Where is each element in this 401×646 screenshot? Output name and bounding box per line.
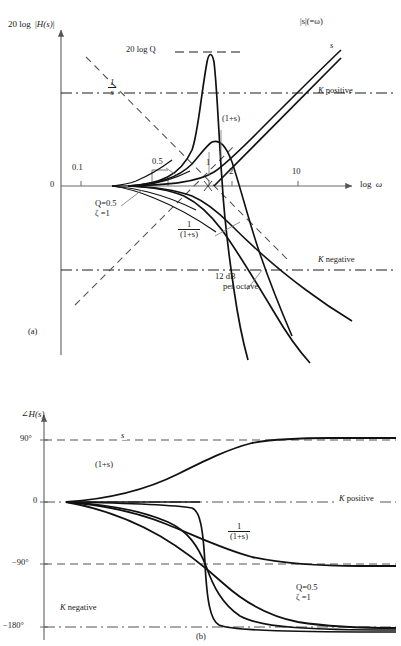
plot-a-y-axis-label: 20 log |H(s)| [8,20,55,29]
plot-a-x-axis-label: log ω [360,180,382,189]
plot-a-inv-s-dashed-ext [248,220,290,262]
plot-a-slope-label: 12 dB per octave [215,272,258,291]
plot-a-k-positive-label: K K positive positive [318,86,353,95]
plot-a-xtick-label-0.1: 0.1 [72,163,83,172]
plot-a-leader-lines [121,130,262,290]
plot-b-inv-one-plus-s-label: 1 (1+s) [228,522,250,540]
plot-b-ytick-label-90: 90° [20,434,32,443]
plot-a-origin-label: 0 [50,180,54,189]
plot-a-xtick-label-10: 10 [292,167,301,176]
plot-a-s-curve-label: s [330,41,333,50]
plot-a-axes [61,30,352,355]
plot-a-abs-s-label: |s|(=ω) [300,17,323,26]
plot-a-leader-q05 [121,190,142,206]
plot-a-xtick-label-0.5: 0.5 [152,157,163,166]
plot-a-q-zeta-label: Q=0.5 ζ =1 [95,199,117,218]
plot-b-axes [40,415,48,640]
plot-b-k-positive-label: K positive [337,494,376,503]
plot-b-y-axis-label: ∠H(s) [19,410,45,419]
plot-b-ytick-label-minus90: −90° [12,558,29,567]
plot-a-one-plus-s-label: (1+s) [222,114,240,123]
angle-icon: ∠ [19,410,29,419]
plot-a-20logq-label: 20 log Q [126,45,156,54]
plot-b-q-zeta-label: Q=0.5 ζ =1 [296,583,318,602]
plot-b-s-curve-label: s [118,431,127,440]
plot-b-one-plus-s-label: (1+s) [95,460,113,469]
figure-caption-a: (a) [28,327,37,336]
plot-a-xtick-label-2: 2 [229,167,233,176]
plot-a-k-negative-label: K negative [318,255,355,264]
plot-a-inv-one-plus-s-label: 1 (1+s) [178,220,200,238]
plot-a-rising-asymptote [75,144,236,305]
bode-plot-svg [0,0,401,646]
plot-b-ytick-label-minus180: −180° [3,621,24,630]
plot-a-leader-inv-1plus-s [215,222,240,236]
plot-b-ytick-label-0: 0 [33,496,37,505]
plot-a-asymptote-dashed [75,144,236,305]
plot-a-origin-bundle [112,160,216,232]
plot-a-high-q-curve [128,55,248,361]
figure-caption-b: (b) [196,632,206,641]
plot-a-inverse-s-label: 1 s [108,78,116,96]
plot-a-xtick-label-1: 1 [206,158,210,167]
plot-b-k-negative-label: K negative [60,603,97,612]
bode-plot-figure: 20 log |H(s)| log ω 0 0.1 0.5 1 2 10 20 … [0,0,401,646]
